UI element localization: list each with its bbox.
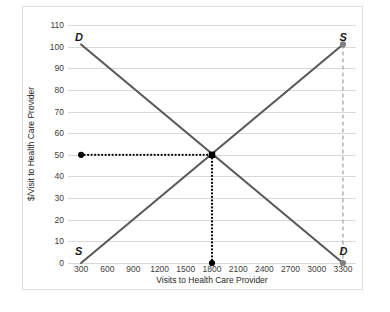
x-tick-600: 600 <box>100 264 114 274</box>
y-tick-40: 40 <box>38 172 64 181</box>
equilibrium-point <box>209 152 215 158</box>
y-tick-80: 80 <box>38 85 64 94</box>
x-tick-1500: 1500 <box>176 264 195 274</box>
y-axis-tick-labels: 1101009080706050403020100 <box>38 25 64 263</box>
supply-label-bottom-left: S <box>75 246 82 257</box>
supply-label-top-right: S <box>340 32 347 43</box>
x-tick-1800: 1800 <box>203 264 222 274</box>
price-axis-point <box>78 152 84 158</box>
x-tick-2100: 2100 <box>229 264 248 274</box>
y-axis-title: $/Visit to Health Care Provider <box>24 25 38 263</box>
plot-area <box>68 25 356 263</box>
y-tick-10: 10 <box>38 237 64 246</box>
y-tick-30: 30 <box>38 194 64 203</box>
supply-demand-chart: $/Visit to Health Care Provider 11010090… <box>0 0 390 312</box>
y-tick-110: 110 <box>38 21 64 30</box>
y-tick-70: 70 <box>38 107 64 116</box>
x-tick-1200: 1200 <box>150 264 169 274</box>
y-tick-20: 20 <box>38 215 64 224</box>
y-tick-100: 100 <box>38 42 64 51</box>
x-tick-2400: 2400 <box>255 264 274 274</box>
x-tick-3300: 3300 <box>333 264 352 274</box>
x-tick-2700: 2700 <box>281 264 300 274</box>
demand-label-bottom-right: D <box>340 246 348 257</box>
x-axis-title: Visits to Health Care Provider <box>68 275 356 286</box>
y-tick-90: 90 <box>38 64 64 73</box>
x-tick-300: 300 <box>74 264 88 274</box>
demand-label-top-left: D <box>75 32 83 43</box>
y-tick-50: 50 <box>38 150 64 159</box>
x-tick-900: 900 <box>126 264 140 274</box>
x-tick-3000: 3000 <box>307 264 326 274</box>
y-tick-60: 60 <box>38 129 64 138</box>
plot-svg <box>68 25 356 263</box>
y-tick-0: 0 <box>38 259 64 268</box>
